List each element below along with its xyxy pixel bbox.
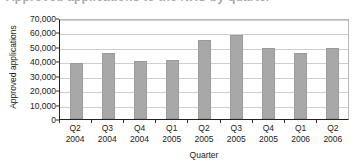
- bar-slot: [188, 20, 220, 119]
- x-axis-title: Quarter: [59, 150, 349, 160]
- y-tick-label: 10,000: [30, 101, 56, 110]
- x-tick-year: 2006: [317, 134, 349, 145]
- x-tick-mark: [220, 120, 221, 123]
- x-tick-year: 2005: [188, 134, 220, 145]
- bar: [134, 61, 147, 119]
- bar: [70, 63, 83, 119]
- bar: [262, 48, 275, 119]
- x-tick-mark: [316, 120, 317, 123]
- bar: [326, 48, 339, 119]
- x-tick-group: Q22004: [59, 121, 91, 147]
- plot-area: [59, 19, 349, 120]
- x-tick-quarter: Q1: [156, 123, 188, 134]
- x-tick-year: 2004: [123, 134, 155, 145]
- x-tick-year: 2004: [91, 134, 123, 145]
- x-tick-group: Q32005: [220, 121, 252, 147]
- x-tick-group: Q22006: [317, 121, 349, 147]
- x-tick-year: 2004: [59, 134, 91, 145]
- x-tick-quarter: Q1: [285, 123, 317, 134]
- x-tick-group: Q12005: [156, 121, 188, 147]
- bar-slot: [284, 20, 316, 119]
- x-tick-quarter: Q4: [123, 123, 155, 134]
- x-tick-group: Q22005: [188, 121, 220, 147]
- bar-slot: [220, 20, 252, 119]
- bar: [198, 40, 211, 119]
- bar-slot: [156, 20, 188, 119]
- bar-slot: [60, 20, 92, 119]
- y-tick-label: 50,000: [30, 44, 56, 53]
- x-tick-group: Q42005: [252, 121, 284, 147]
- x-tick-mark: [284, 120, 285, 123]
- x-tick-mark: [91, 120, 92, 123]
- x-tick-year: 2005: [252, 134, 284, 145]
- bar-slot: [124, 20, 156, 119]
- bar: [230, 35, 243, 119]
- x-tick-group: Q32004: [91, 121, 123, 147]
- x-tick-quarter: Q2: [188, 123, 220, 134]
- x-tick-quarter: Q2: [317, 123, 349, 134]
- y-tick-label: 30,000: [30, 72, 56, 81]
- x-axis-tick-labels: Q22004Q32004Q42004Q12005Q22005Q32005Q420…: [59, 121, 349, 147]
- x-tick-quarter: Q3: [220, 123, 252, 134]
- x-tick-mark: [252, 120, 253, 123]
- x-tick-mark: [59, 120, 60, 123]
- x-tick-mark: [155, 120, 156, 123]
- y-tick-label: 40,000: [30, 58, 56, 67]
- bar: [102, 53, 115, 119]
- y-tick-label: 70,000: [30, 15, 56, 24]
- bar: [166, 60, 179, 119]
- x-tick-mark: [187, 120, 188, 123]
- bar-series: [60, 20, 348, 119]
- bar-slot: [92, 20, 124, 119]
- bar-chart-figure: Approved applications to the NHS by quar…: [0, 0, 358, 164]
- y-tick-label: 20,000: [30, 87, 56, 96]
- bar-slot: [316, 20, 348, 119]
- x-tick-quarter: Q4: [252, 123, 284, 134]
- figure-caption: Approved applications to the NHS by quar…: [6, 0, 271, 4]
- x-tick-group: Q12006: [285, 121, 317, 147]
- x-tick-quarter: Q2: [59, 123, 91, 134]
- x-tick-year: 2005: [156, 134, 188, 145]
- y-axis-tick-labels: 010,00020,00030,00040,00050,00060,00070,…: [12, 14, 56, 121]
- y-tick-label: 60,000: [30, 29, 56, 38]
- bar-slot: [252, 20, 284, 119]
- bar: [294, 53, 307, 119]
- figure-caption-strip: Approved applications to the NHS by quar…: [0, 0, 358, 9]
- x-tick-mark: [123, 120, 124, 123]
- x-tick-year: 2005: [220, 134, 252, 145]
- x-tick-group: Q42004: [123, 121, 155, 147]
- x-tick-quarter: Q3: [91, 123, 123, 134]
- x-tick-year: 2006: [285, 134, 317, 145]
